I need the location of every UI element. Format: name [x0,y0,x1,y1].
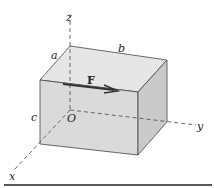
figure-box-with-force: z y x O a b c F [0,0,214,188]
dim-b-label: b [118,42,125,55]
y-label: y [196,120,204,133]
dim-a-label: a [51,49,58,62]
force-label: F [87,74,95,87]
diagram-canvas: z y x O a b c F [0,0,214,188]
x-label: x [9,170,16,183]
origin-label: O [67,112,76,125]
front-face [40,80,138,155]
z-label: z [65,11,72,24]
dim-c-label: c [31,111,37,124]
